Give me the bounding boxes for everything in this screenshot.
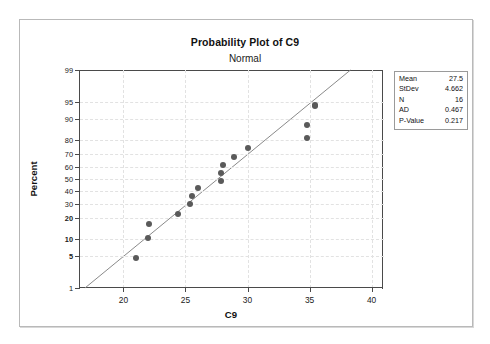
data-point xyxy=(220,162,226,168)
probability-plot-page: Probability Plot of C9 Normal 1510203040… xyxy=(0,0,490,344)
y-gridline xyxy=(80,256,384,257)
y-axis-label: 99 xyxy=(65,66,73,75)
data-point xyxy=(187,201,193,207)
x-axis-label: 30 xyxy=(243,295,252,305)
y-axis-tick xyxy=(75,140,80,141)
x-axis-tick xyxy=(372,287,373,292)
y-axis-tick xyxy=(75,288,80,289)
statistics-row: StDev4.662 xyxy=(398,84,464,94)
y-axis-tick xyxy=(75,218,80,219)
data-point xyxy=(312,102,318,108)
data-point xyxy=(218,178,224,184)
x-axis-tick xyxy=(248,287,249,292)
statistics-key: StDev xyxy=(398,84,419,94)
y-axis-tick xyxy=(75,256,80,257)
y-axis-label: 90 xyxy=(65,114,73,123)
y-axis-label: 10 xyxy=(65,235,73,244)
statistics-row: N16 xyxy=(398,95,464,105)
y-axis-tick xyxy=(75,179,80,180)
statistics-row: P-Value0.217 xyxy=(398,116,464,126)
statistics-row: AD0.467 xyxy=(398,105,464,115)
y-gridline xyxy=(80,218,384,219)
page-title: Probability Plot of C9 xyxy=(0,36,490,48)
y-gridline xyxy=(80,204,384,205)
x-axis-tick xyxy=(310,287,311,292)
x-axis-label: 25 xyxy=(181,295,190,305)
x-gridline xyxy=(310,70,311,288)
statistics-key: P-Value xyxy=(398,116,424,126)
y-axis-tick xyxy=(75,204,80,205)
x-axis-title: C9 xyxy=(79,309,383,320)
chart-subtitle: Normal xyxy=(0,53,490,64)
data-point xyxy=(145,235,151,241)
y-gridline xyxy=(80,167,384,168)
statistics-key: AD xyxy=(398,105,409,115)
plot-area: 1510203040506070809095992025303540 xyxy=(79,70,383,288)
y-axis-label: 5 xyxy=(69,252,73,261)
y-axis-label: 95 xyxy=(65,97,73,106)
y-axis-label: 80 xyxy=(65,135,73,144)
statistics-value: 4.662 xyxy=(445,84,464,94)
data-point xyxy=(218,170,224,176)
data-point xyxy=(245,145,251,151)
statistics-box: Mean27.5StDev4.662N16AD0.467P-Value0.217 xyxy=(394,71,468,130)
statistics-key: Mean xyxy=(398,74,417,84)
x-axis-label: 35 xyxy=(305,295,314,305)
statistics-row: Mean27.5 xyxy=(398,74,464,84)
x-axis-tick xyxy=(185,287,186,292)
data-point xyxy=(175,211,181,217)
statistics-value: 27.5 xyxy=(449,74,464,84)
y-axis-tick xyxy=(75,191,80,192)
x-gridline xyxy=(248,70,249,288)
statistics-key: N xyxy=(398,95,404,105)
y-axis-tick xyxy=(75,239,80,240)
y-gridline xyxy=(80,140,384,141)
y-axis-label: 30 xyxy=(65,199,73,208)
y-axis-tick xyxy=(75,102,80,103)
x-gridline xyxy=(372,70,373,288)
data-point xyxy=(146,221,152,227)
data-point xyxy=(133,255,139,261)
y-axis-title: Percent xyxy=(28,161,39,196)
statistics-value: 0.467 xyxy=(445,105,464,115)
statistics-value: 16 xyxy=(455,95,464,105)
statistics-value: 0.217 xyxy=(445,116,464,126)
y-axis-tick xyxy=(75,119,80,120)
y-gridline xyxy=(80,102,384,103)
data-point xyxy=(304,122,310,128)
x-gridline xyxy=(123,70,124,288)
x-gridline xyxy=(185,70,186,288)
y-axis-tick xyxy=(75,167,80,168)
y-axis-label: 50 xyxy=(65,175,73,184)
y-axis-tick xyxy=(75,70,80,71)
y-gridline xyxy=(80,239,384,240)
y-axis-label: 40 xyxy=(65,186,73,195)
x-axis-label: 40 xyxy=(367,295,376,305)
data-point xyxy=(231,154,237,160)
data-point xyxy=(195,185,201,191)
y-axis-tick xyxy=(75,154,80,155)
data-point xyxy=(304,135,310,141)
data-point xyxy=(189,193,195,199)
x-axis-tick xyxy=(123,287,124,292)
y-gridline xyxy=(80,179,384,180)
y-axis-label: 70 xyxy=(65,150,73,159)
y-gridline xyxy=(80,119,384,120)
y-gridline xyxy=(80,191,384,192)
y-axis-label: 1 xyxy=(69,284,73,293)
y-axis-label: 60 xyxy=(65,163,73,172)
x-axis-label: 20 xyxy=(119,295,128,305)
y-axis-label: 20 xyxy=(65,214,73,223)
